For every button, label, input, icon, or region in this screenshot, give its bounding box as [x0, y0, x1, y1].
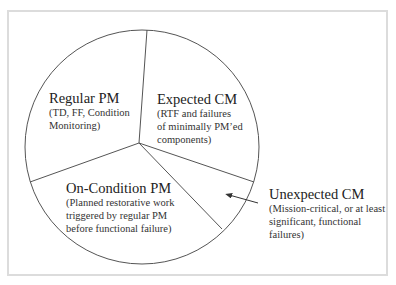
segment-on-condition-pm: On-Condition PM (Planned restorative wor…: [66, 180, 174, 235]
segment-title: On-Condition PM: [66, 180, 174, 196]
segment-description-line: Monitoring): [49, 119, 130, 132]
pointer-arrow-icon: [231, 196, 258, 204]
segment-title: Unexpected CM: [269, 186, 385, 202]
segment-description-line: failures): [269, 228, 385, 241]
segment-title: Regular PM: [49, 90, 130, 106]
segment-description-line: (TD, FF, Condition: [49, 106, 130, 119]
divider-top: [139, 30, 147, 143]
segment-description-line: triggered by regular PM: [66, 209, 174, 222]
segment-description-line: (Mission-critical, or at least: [269, 202, 385, 215]
divider-right: [139, 143, 254, 182]
segment-description-line: (RTF and failures: [157, 107, 243, 120]
segment-expected-cm: Expected CM (RTF and failures of minimal…: [157, 91, 243, 146]
segment-unexpected-cm: Unexpected CM (Mission-critical, or at l…: [269, 186, 385, 241]
segment-description-line: significant, functional: [269, 215, 385, 228]
segment-description-line: components): [157, 133, 243, 146]
divider-left: [30, 143, 139, 182]
segment-regular-pm: Regular PM (TD, FF, Condition Monitoring…: [49, 90, 130, 132]
segment-description-line: of minimally PM’ed: [157, 120, 243, 133]
segment-description-line: before functional failure): [66, 222, 174, 235]
segment-title: Expected CM: [157, 91, 243, 107]
segment-description-line: (Planned restorative work: [66, 196, 174, 209]
